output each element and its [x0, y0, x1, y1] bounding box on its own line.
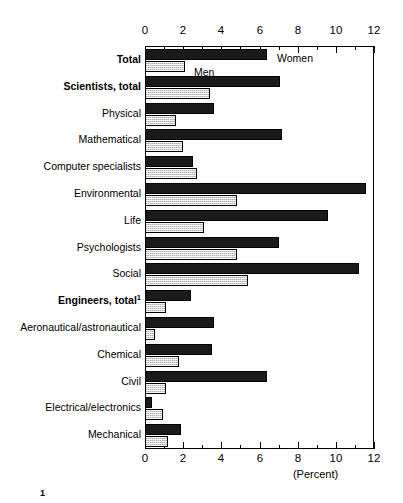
bar-men: [145, 222, 204, 233]
bar-men: [145, 409, 163, 420]
xaxis-title-text: (Percent): [293, 468, 338, 480]
chart-row: Social: [0, 262, 403, 290]
bar-women: [145, 397, 152, 408]
xaxis-bottom-tick-label: 4: [206, 452, 236, 464]
chart-row: Chemical: [0, 343, 403, 371]
chart-row: Mathematical: [0, 128, 403, 156]
chart-row: Environmental: [0, 182, 403, 210]
chart-row: Computer specialists: [0, 155, 403, 183]
xaxis-bottom-tick-label: 8: [283, 452, 313, 464]
xaxis-top-tick-label: 12: [359, 24, 389, 36]
xaxis-bottom-tick-label: 12: [359, 452, 389, 464]
bar-women: [145, 129, 282, 140]
xaxis-top-tick-label: 2: [168, 24, 198, 36]
bar-men: [145, 168, 197, 179]
bar-women: [145, 290, 191, 301]
bar-women: [145, 237, 279, 248]
xaxis-title: (Percent): [0, 468, 403, 480]
category-label: Social: [112, 267, 141, 280]
category-label: Computer specialists: [44, 160, 141, 173]
chart-row: Electrical/electronics: [0, 396, 403, 424]
chart-row: Engineers, total1: [0, 289, 403, 317]
xaxis-top-tick-label: 6: [245, 24, 275, 36]
xaxis-top-tick-label: 10: [321, 24, 351, 36]
chart-row: Civil: [0, 370, 403, 398]
xaxis-top-tick-label: 8: [283, 24, 313, 36]
category-label: Physical: [102, 107, 141, 120]
category-label: Chemical: [97, 348, 141, 361]
bar-women: [145, 183, 366, 194]
bar-men: [145, 436, 168, 447]
xaxis-bottom-tick-label: 6: [245, 452, 275, 464]
bar-men: [145, 249, 237, 260]
bar-women: [145, 317, 214, 328]
bar-women: [145, 371, 267, 382]
bar-women: [145, 424, 181, 435]
category-label: Psychologists: [77, 241, 141, 254]
series-annotation-women: Women: [277, 52, 313, 64]
xaxis-top-tick-label: 0: [130, 24, 160, 36]
bar-men: [145, 88, 210, 99]
bar-men: [145, 302, 166, 313]
bar-men: [145, 61, 185, 72]
chart-row: Mechanical: [0, 423, 403, 451]
bar-men: [145, 141, 183, 152]
bar-men: [145, 383, 166, 394]
category-label: Mathematical: [79, 133, 141, 146]
chart-row: Scientists, total: [0, 75, 403, 103]
series-annotation-men: Men: [194, 66, 214, 78]
bar-women: [145, 103, 214, 114]
footnote-marker: 1: [40, 488, 45, 498]
category-label: Life: [124, 214, 141, 227]
category-footnote-ref: 1: [137, 293, 141, 302]
category-label: Engineers, total1: [58, 294, 141, 307]
chart-row: Physical: [0, 102, 403, 130]
bar-women: [145, 210, 328, 221]
bar-men: [145, 275, 248, 286]
bar-men: [145, 195, 237, 206]
bar-men: [145, 356, 179, 367]
bar-women: [145, 263, 359, 274]
category-label: Scientists, total: [63, 80, 141, 93]
xaxis-bottom-tick-label: 0: [130, 452, 160, 464]
xaxis-bottom-tick-label: 10: [321, 452, 351, 464]
category-label: Aeronautical/astronautical: [20, 321, 141, 334]
chart-row: Aeronautical/astronautical: [0, 316, 403, 344]
bar-men: [145, 329, 155, 340]
bar-men: [145, 115, 176, 126]
chart-row: Life: [0, 209, 403, 237]
category-label: Civil: [121, 375, 141, 388]
xaxis-bottom-tick-label: 2: [168, 452, 198, 464]
category-label: Total: [117, 53, 141, 66]
bar-chart: 0 2 4 6 8 10 12 0 2 4 6 8 10 12 TotalSci…: [0, 0, 403, 503]
category-label: Electrical/electronics: [45, 401, 141, 414]
bar-women: [145, 156, 193, 167]
bar-women: [145, 49, 267, 60]
xaxis-top-tick-label: 4: [206, 24, 236, 36]
chart-row: Psychologists: [0, 236, 403, 264]
bar-women: [145, 344, 212, 355]
category-label: Environmental: [74, 187, 141, 200]
category-label: Mechanical: [88, 428, 141, 441]
